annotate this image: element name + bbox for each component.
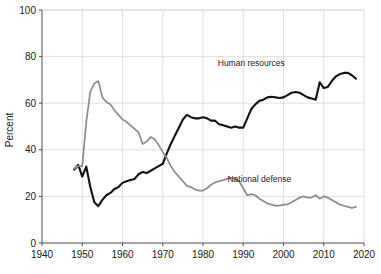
y-tick-label: 0 (30, 238, 36, 249)
line-chart-canvas: 194019501960197019801990200020102020 020… (0, 0, 381, 274)
x-tick-labels-group: 194019501960197019801990200020102020 (31, 249, 376, 260)
y-tick-label: 20 (25, 191, 37, 202)
x-tick-label: 2010 (313, 249, 336, 260)
x-tick-label: 1940 (31, 249, 54, 260)
chart-figure: 194019501960197019801990200020102020 020… (0, 0, 381, 274)
y-axis-title: Percent (4, 113, 15, 148)
x-tick-label: 1970 (152, 249, 175, 260)
y-tick-label: 100 (19, 5, 36, 16)
x-tick-label: 2000 (272, 249, 295, 260)
x-tick-label: 1950 (71, 249, 94, 260)
x-tick-label: 1980 (192, 249, 215, 260)
y-tick-label: 80 (25, 51, 37, 62)
x-tick-label: 1960 (111, 249, 134, 260)
x-tick-label: 1990 (232, 249, 255, 260)
series-label-1: Human resources (218, 58, 285, 68)
y-tick-label: 40 (25, 144, 37, 155)
y-tick-label: 60 (25, 98, 37, 109)
series-label-2: National defense (227, 174, 291, 184)
x-tick-label: 2020 (353, 249, 376, 260)
